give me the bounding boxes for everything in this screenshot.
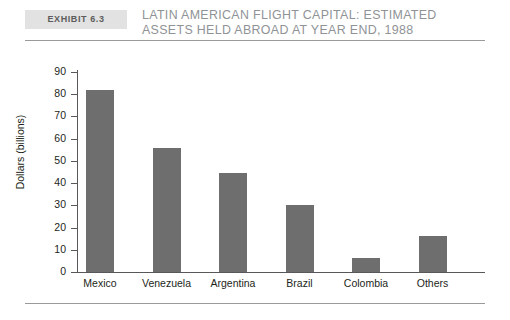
y-axis-tick-label: 40: [44, 176, 66, 188]
bar: [419, 236, 447, 272]
y-axis-tick: [71, 183, 77, 184]
y-axis-tick-label: 70: [44, 109, 66, 121]
y-axis-title: Dollars (billions): [14, 102, 26, 202]
y-axis-tick-label: 90: [44, 65, 66, 77]
bar: [352, 258, 380, 272]
y-axis-tick-label: 0: [44, 265, 66, 277]
y-axis-tick: [71, 205, 77, 206]
bar: [86, 90, 114, 272]
y-axis-tick: [71, 272, 77, 273]
y-axis-tick: [71, 161, 77, 162]
bar: [286, 205, 314, 272]
x-axis-line: [77, 272, 485, 273]
y-axis-tick-label: 60: [44, 132, 66, 144]
y-axis-tick-label: 50: [44, 154, 66, 166]
y-axis-tick: [71, 228, 77, 229]
y-axis-line: [77, 70, 78, 272]
y-axis-tick: [71, 72, 77, 73]
y-axis-tick-label: 30: [44, 198, 66, 210]
bar-chart: Dollars (billions) 0102030405060708090 M…: [0, 0, 510, 300]
x-axis-label: Others: [388, 277, 478, 289]
y-axis-tick-label: 10: [44, 243, 66, 255]
y-axis-tick: [71, 250, 77, 251]
y-axis-tick-label: 20: [44, 221, 66, 233]
y-axis-tick: [71, 94, 77, 95]
bar: [219, 173, 247, 272]
exhibit-figure: Exhibit 6.3 Latin American Flight Capita…: [0, 0, 510, 320]
footer-divider: [25, 303, 485, 304]
bar: [153, 148, 181, 272]
y-axis-tick-label: 80: [44, 87, 66, 99]
y-axis-tick: [71, 139, 77, 140]
y-axis-tick: [71, 116, 77, 117]
